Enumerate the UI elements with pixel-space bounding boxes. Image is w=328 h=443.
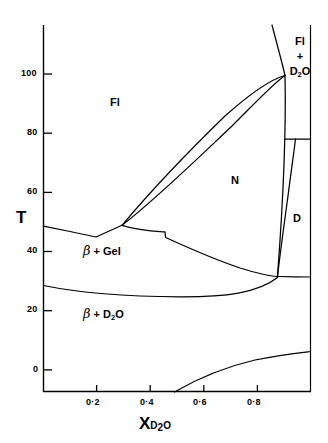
beta-gel-d2o-boundary: [44, 278, 278, 297]
phase-boundaries: [44, 25, 311, 392]
region-label-beta-gel: β + Gel: [83, 244, 121, 257]
nematic-channel-inner: [122, 76, 285, 226]
x-tick-label-04: 0·4: [140, 398, 154, 407]
beta-symbol-gel: β: [83, 243, 91, 258]
fluid-plus-d2o-o: O: [302, 65, 311, 77]
region-label-nematic: N: [231, 175, 239, 186]
x-axis-title-sub-2: 2: [158, 422, 164, 433]
y-axis-ticks: [43, 74, 52, 370]
fluid-plus-d2o-d: D: [290, 65, 298, 77]
d-phase-left-boundary: [278, 139, 296, 277]
beta-d2o-tail: O: [115, 308, 124, 320]
beta-gel-rest: + Gel: [91, 245, 121, 257]
beta-symbol-d2o: β: [83, 306, 91, 321]
region-label-d-phase: D: [293, 213, 301, 224]
y-tick-label-60: 60: [27, 187, 37, 196]
fluid-plus-d2o-line-3: D2O: [283, 66, 317, 77]
x-axis-title-sub-o: O: [163, 420, 171, 431]
y-tick-label-0: 0: [33, 365, 38, 374]
x-axis-title-sub-d: D: [150, 420, 157, 431]
fluid-plus-d2o-line-1: Fl: [283, 36, 317, 47]
region-label-fluid: Fl: [110, 97, 120, 108]
y-tick-label-80: 80: [27, 128, 37, 137]
region-label-beta-d2o: β + D2O: [83, 307, 124, 320]
x-axis-title: XD2O: [139, 415, 171, 432]
y-tick-label-100: 100: [21, 69, 37, 78]
x-tick-label-06: 0·6: [193, 398, 207, 407]
phase-diagram-plot: [0, 0, 328, 443]
y-tick-label-40: 40: [27, 246, 37, 255]
triple-point-to-right-edge: [278, 277, 311, 278]
region-label-fluid-plus-d2o: Fl + D2O: [283, 36, 317, 77]
axis-group: [43, 25, 311, 392]
x-tick-label-02: 0·2: [86, 398, 100, 407]
beta-d2o-sub: 2: [111, 313, 115, 322]
x-axis-title-main: X: [139, 414, 150, 433]
fluid-left-liquidus: [44, 225, 123, 237]
gel-sub-boundary: [122, 225, 278, 276]
y-tick-label-20: 20: [27, 305, 37, 314]
fluid-plus-d2o-line-2: +: [283, 51, 317, 62]
y-axis-title: T: [16, 209, 26, 226]
lower-solidus: [175, 352, 311, 393]
phase-diagram-figure: 100 80 60 40 20 0 0·2 0·4 0·6 0·8 T XD2O…: [0, 0, 328, 443]
beta-d2o-plus: + D: [91, 308, 111, 320]
x-tick-label-08: 0·8: [247, 398, 261, 407]
fluid-plus-d2o-2: 2: [298, 70, 302, 79]
